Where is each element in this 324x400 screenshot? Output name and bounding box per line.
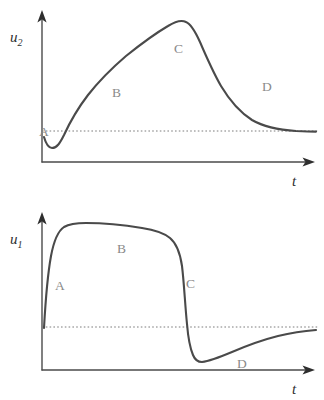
segment-label-d-u2: D	[262, 79, 272, 94]
x-axis-label-t-u1: t	[292, 381, 297, 397]
x-axis-label-t-u2: t	[292, 173, 297, 189]
y-axis-label-u1: u1	[10, 231, 23, 250]
segment-label-b-u2: B	[112, 85, 121, 100]
chart-panel-u2: u2 t A B C D	[0, 0, 324, 200]
segment-label-b-u1: B	[117, 241, 126, 256]
y-axis-label-u2: u2	[10, 29, 23, 48]
x-axis-u1	[42, 365, 315, 374]
segment-label-c-u1: C	[186, 276, 195, 291]
curve-u1	[44, 223, 316, 362]
figure-canvas: u2 t A B C D	[0, 0, 324, 400]
segment-label-a-u2: A	[39, 124, 49, 139]
x-axis-u2	[42, 157, 315, 166]
chart-panel-u1: u1 t A B C D	[0, 200, 324, 400]
segment-label-d-u1: D	[237, 356, 247, 371]
segment-label-c-u2: C	[174, 41, 183, 56]
y-axis-u1	[37, 212, 46, 370]
segment-label-a-u1: A	[55, 278, 65, 293]
